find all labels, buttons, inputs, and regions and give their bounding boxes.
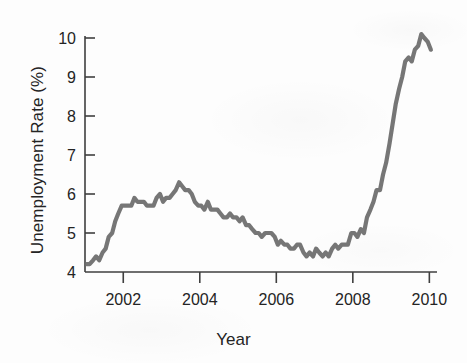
x-axis-tick-label: 2010 [412,291,448,308]
tick-label-layer: 4567891020022004200620082010 [58,30,447,308]
data-series-layer [87,34,431,264]
x-axis-title: Year [0,330,467,350]
x-axis-tick-label: 2006 [259,291,295,308]
data-line [87,34,431,264]
tick-layer [85,38,429,283]
y-axis-tick-label: 6 [67,186,76,203]
y-axis-tick-label: 7 [67,147,76,164]
y-axis-tick-label: 10 [58,30,76,47]
y-axis-tick-label: 5 [67,225,76,242]
chart-figure: 4567891020022004200620082010 Unemploymen… [0,0,467,363]
y-axis-title: Unemployment Rate (%) [28,50,48,270]
y-axis-tick-label: 8 [67,108,76,125]
y-axis-tick-label: 4 [67,264,76,281]
x-axis-tick-label: 2002 [105,291,141,308]
line-chart-plot: 4567891020022004200620082010 [0,0,467,363]
x-axis-tick-label: 2008 [335,291,371,308]
x-axis-tick-label: 2004 [182,291,218,308]
y-axis-tick-label: 9 [67,69,76,86]
